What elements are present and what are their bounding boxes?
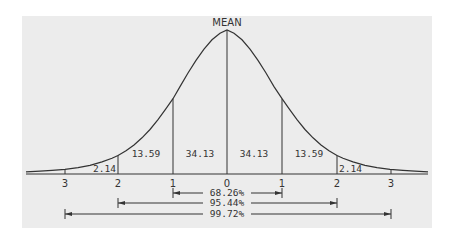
area-label-left-1-0: 34.13 [186,148,215,159]
range-two-sigma-label: 95.44% [210,197,245,208]
mean-label: MEAN [212,17,241,28]
area-label-right-1-2: 13.59 [295,148,324,159]
area-label-right-0-1: 34.13 [240,148,269,159]
normal-distribution-diagram: MEAN 2.14 13.59 34.13 34.13 13.59 2.14 3… [0,0,452,236]
tick-label-neg2: 2 [115,178,121,189]
range-three-sigma: 99.72% [65,208,391,219]
tick-label-pos1: 1 [279,178,285,189]
tick-label-neg3: 3 [62,178,68,189]
tick-label-pos3: 3 [388,178,394,189]
tick-label-pos2: 2 [334,178,340,189]
area-label-left-3-2: 2.14 [93,163,116,174]
area-label-left-2-1: 13.59 [132,148,161,159]
area-label-right-2-3: 2.14 [339,163,362,174]
range-two-sigma: 95.44% [118,197,337,208]
range-three-sigma-label: 99.72% [210,208,245,219]
tick-label-neg1: 1 [170,178,176,189]
